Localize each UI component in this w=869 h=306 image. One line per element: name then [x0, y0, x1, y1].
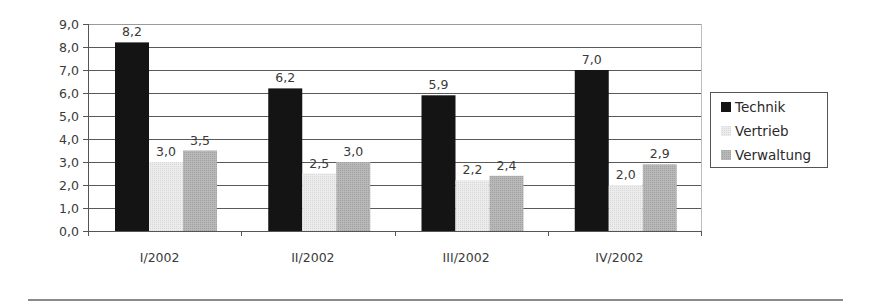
data-label: 3,5 [190, 133, 210, 148]
y-tick-label: 9,0 [59, 17, 79, 32]
bar-verwaltung [336, 162, 370, 231]
data-label: 7,0 [582, 52, 602, 67]
legend-item-verwaltung: Verwaltung [721, 147, 811, 163]
bottom-divider [28, 299, 843, 301]
data-label: 2,5 [309, 156, 329, 171]
bar-vertrieb [456, 180, 490, 231]
x-category-label: II/2002 [291, 250, 334, 265]
bar-chart: 0,01,02,03,04,05,06,07,08,09,0 I/2002II/… [0, 0, 869, 306]
data-label: 2,0 [616, 167, 636, 182]
bar-verwaltung [490, 176, 524, 231]
data-label: 8,2 [122, 24, 142, 39]
legend-swatch [721, 150, 731, 160]
data-label: 3,0 [156, 144, 176, 159]
data-label: 2,2 [463, 162, 483, 177]
x-category-label: III/2002 [443, 250, 490, 265]
y-tick-label: 4,0 [59, 132, 79, 147]
bar-vertrieb [302, 174, 336, 232]
legend-swatch [721, 102, 731, 112]
x-axis: I/2002II/2002III/2002IV/2002 [88, 231, 702, 265]
bar-verwaltung [183, 151, 217, 232]
y-tick-label: 3,0 [59, 155, 79, 170]
y-tick-label: 0,0 [59, 224, 79, 239]
bar-technik [268, 88, 302, 231]
y-tick-label: 7,0 [59, 63, 79, 78]
bar-technik [575, 70, 609, 231]
data-label: 6,2 [275, 70, 295, 85]
y-tick-label: 5,0 [59, 109, 79, 124]
data-label: 2,4 [497, 158, 517, 173]
legend-label: Verwaltung [735, 147, 811, 163]
data-label: 5,9 [429, 77, 449, 92]
legend-swatch [721, 126, 731, 136]
legend-label: Technik [734, 99, 786, 115]
x-category-label: I/2002 [140, 250, 180, 265]
bar-verwaltung [643, 164, 677, 231]
legend: TechnikVertriebVerwaltung [711, 93, 828, 168]
legend-label: Vertrieb [735, 123, 789, 139]
y-axis: 0,01,02,03,04,05,06,07,08,09,0 [59, 17, 88, 239]
y-tick-label: 8,0 [59, 40, 79, 55]
y-tick-label: 6,0 [59, 86, 79, 101]
x-category-label: IV/2002 [595, 250, 643, 265]
data-label: 2,9 [650, 146, 670, 161]
bar-vertrieb [149, 162, 183, 231]
bar-technik [115, 42, 149, 231]
bar-technik [422, 95, 456, 231]
bar-vertrieb [609, 185, 643, 231]
y-tick-label: 2,0 [59, 178, 79, 193]
y-tick-label: 1,0 [59, 201, 79, 216]
data-label: 3,0 [343, 144, 363, 159]
